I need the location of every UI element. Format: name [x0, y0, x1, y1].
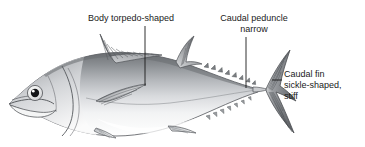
eye-highlight	[32, 90, 35, 93]
label-caudal-peduncle-narrow: Caudal peduncle narrow	[208, 13, 300, 35]
label-body-torpedo-shaped: Body torpedo-shaped	[88, 13, 174, 24]
eye-pupil	[31, 89, 39, 97]
tuna-illustration	[9, 34, 296, 138]
label-caudal-fin-sickle-shaped-stiff: Caudal fin sickle-shaped, stiff	[284, 69, 342, 102]
second-dorsal-fin	[176, 36, 202, 68]
